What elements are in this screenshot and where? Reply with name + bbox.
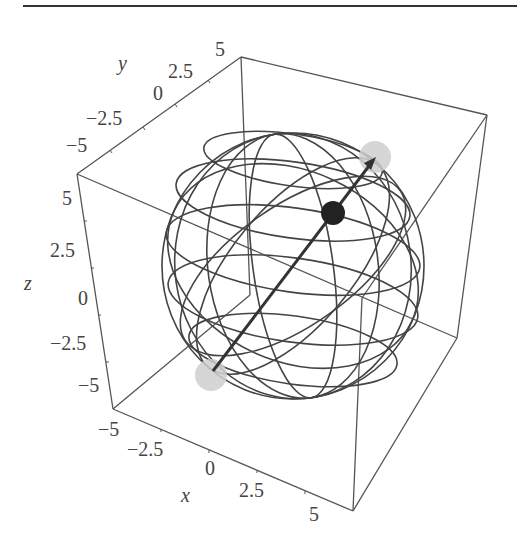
dark-point <box>321 201 345 225</box>
z-tick: 2.5 <box>50 239 75 261</box>
box-edge-bottom-right <box>353 338 457 511</box>
y-tick: 2.5 <box>168 60 193 82</box>
box-edge-top-back <box>241 57 487 115</box>
z-tick: −2.5 <box>50 332 86 354</box>
x-axis-label: x <box>180 484 190 506</box>
x-tick: 5 <box>309 503 319 525</box>
y-tick: −2.5 <box>86 107 122 129</box>
z-tick: −5 <box>78 374 99 396</box>
x-tick: −2.5 <box>127 438 163 460</box>
y-axis-label: y <box>116 52 127 75</box>
lower-antipode-point <box>195 359 227 391</box>
z-axis-label: z <box>23 272 32 294</box>
plot-3d: y z x −5 −2.5 0 2.5 5 5 2.5 0 −2.5 −5 −5… <box>0 0 517 549</box>
z-tick: 5 <box>62 187 72 209</box>
x-axis-line <box>113 409 353 511</box>
diameter-arrow <box>213 162 372 371</box>
x-tick: −5 <box>98 418 119 440</box>
z-tick: 0 <box>78 287 88 309</box>
y-tick: 5 <box>215 38 225 60</box>
x-tick: 0 <box>205 457 215 479</box>
y-tick: −5 <box>66 134 87 156</box>
x-tick: 2.5 <box>239 479 264 501</box>
upper-antipode-point <box>359 141 391 173</box>
box-edge-right-vertical <box>457 115 487 338</box>
y-tick: 0 <box>153 82 163 104</box>
